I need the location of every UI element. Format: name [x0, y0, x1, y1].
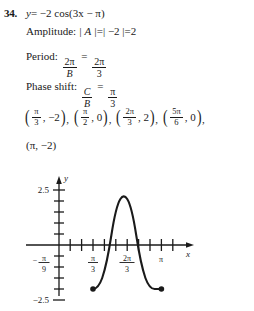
- point-1-x-fraction: π3: [32, 107, 40, 127]
- point-1-x-numerator: π: [32, 107, 40, 118]
- period-line: Period: 2π B = 2π 3: [26, 50, 108, 80]
- left-paren-3: (: [116, 110, 121, 124]
- neg-sign: −: [33, 256, 38, 265]
- point-separator-4: ,: [202, 113, 205, 125]
- left-paren-4: (: [163, 110, 168, 124]
- key-points-row-1: (π3, −2), (π2, 0), (2π3, 2), (5π6, 0),: [24, 107, 206, 127]
- neg-pi-over-9-numerator: π: [42, 254, 46, 263]
- point-2-y: 0: [97, 111, 103, 123]
- phase-shift-left-numerator: C: [82, 86, 93, 98]
- equation-expression: −2 cos(3x − π): [40, 7, 105, 19]
- point-separator-2: ,: [109, 113, 112, 125]
- period-right-denominator: 3: [95, 68, 104, 79]
- period-right-fraction: 2π 3: [92, 56, 106, 79]
- point-4: (5π6, 0): [162, 107, 202, 127]
- amplitude-abs-a: | A |: [79, 25, 97, 37]
- left-paren-1: (: [25, 110, 30, 124]
- point-2: (π2, 0): [73, 107, 109, 127]
- point-separator-1: ,: [66, 113, 69, 125]
- point-2-comma: ,: [91, 111, 94, 123]
- period-right-numerator: 2π: [92, 56, 106, 68]
- point-3-y: 2: [144, 111, 150, 123]
- point-4-x-fraction: 5π6: [170, 107, 183, 127]
- point-1-y: −2: [48, 111, 60, 123]
- cosine-graph: y x 2.5 −2.5 − π 9 π 3 2π: [0, 155, 254, 311]
- period-left-numerator: 2π: [63, 56, 77, 68]
- right-paren-3: ): [150, 110, 155, 124]
- y-tick-label-bottom: −2.5: [33, 295, 50, 305]
- curve-endpoint-right-dot: [159, 286, 165, 292]
- pi-over-3-denominator: 3: [91, 265, 95, 274]
- x-axis-label: x: [185, 249, 190, 259]
- amplitude-line: Amplitude: | A |=| −2 |=2: [26, 25, 136, 37]
- point-3: (2π3, 2): [115, 107, 155, 127]
- pi-over-3-numerator: π: [91, 254, 95, 263]
- point-5: (π, −2): [26, 139, 56, 151]
- key-points-row-2: (π, −2): [26, 139, 56, 151]
- period-equals: =: [81, 50, 87, 62]
- phase-shift-right-numerator: π: [108, 86, 117, 98]
- phase-shift-equals: =: [97, 80, 103, 92]
- point-2-x-fraction: π2: [81, 107, 89, 127]
- problem-number: 34.: [4, 7, 17, 19]
- point-2-x-denominator: 2: [81, 118, 89, 128]
- point-4-x-denominator: 6: [172, 118, 180, 128]
- textbook-problem-page: 34. y= −2 cos(3x − π) Amplitude: | A |=|…: [0, 0, 254, 311]
- x-tick-label-2pi-over-3: 2π 3: [120, 254, 135, 274]
- point-separator-3: ,: [155, 113, 158, 125]
- amplitude-value: 2: [131, 25, 137, 37]
- x-axis-arrow-icon: [186, 242, 194, 248]
- point-4-y: 0: [190, 111, 196, 123]
- period-label: Period:: [26, 50, 58, 62]
- right-paren-2: ): [103, 110, 108, 124]
- right-paren-4: ): [197, 110, 202, 124]
- two-pi-over-3-numerator: 2π: [123, 254, 131, 263]
- phase-shift-label: Phase shift:: [26, 80, 77, 92]
- period-left-fraction: 2π B: [63, 56, 77, 79]
- right-paren-1: ): [61, 110, 66, 124]
- point-3-x-fraction: 2π3: [123, 107, 136, 127]
- point-1: (π3, −2): [24, 107, 66, 127]
- y-axis-arrow-icon: [56, 176, 62, 184]
- y-tick-label-top: 2.5: [38, 185, 50, 195]
- point-3-comma: ,: [138, 111, 141, 123]
- point-3-x-denominator: 3: [126, 118, 134, 128]
- problem-equation: y= −2 cos(3x − π): [26, 7, 105, 19]
- two-pi-over-3-denominator: 3: [125, 265, 129, 274]
- y-axis-label: y: [63, 173, 68, 183]
- period-left-denominator: B: [65, 68, 75, 79]
- equation-equals: =: [31, 7, 37, 19]
- point-4-comma: ,: [185, 111, 188, 123]
- phase-shift-line: Phase shift: C B = π 3: [26, 80, 119, 110]
- point-1-comma: ,: [43, 111, 46, 123]
- left-paren-2: (: [74, 110, 79, 124]
- point-2-x-numerator: π: [81, 107, 89, 118]
- neg-pi-over-9-denominator: 9: [42, 265, 46, 274]
- x-tick-label-pi: π: [159, 255, 163, 264]
- point-4-x-numerator: 5π: [170, 107, 183, 118]
- x-tick-label-pi-over-3: π 3: [88, 254, 98, 274]
- point-3-x-numerator: 2π: [123, 107, 136, 118]
- curve-endpoint-left-dot: [90, 286, 96, 292]
- x-tick-label-neg-pi-over-9: − π 9: [33, 254, 50, 274]
- amplitude-abs-value: | −2 |: [103, 25, 125, 37]
- point-1-x-denominator: 3: [32, 118, 40, 128]
- amplitude-label: Amplitude:: [26, 25, 76, 37]
